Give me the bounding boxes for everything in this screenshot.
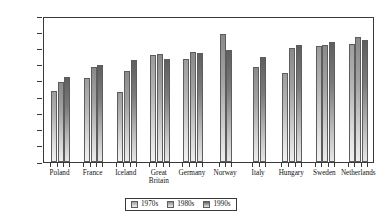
bar-germany-1980s bbox=[190, 52, 196, 162]
y-tick-mark bbox=[37, 98, 42, 99]
bar-norway-1990s bbox=[226, 50, 232, 162]
bar-germany-1970s bbox=[183, 59, 189, 162]
x-tick-mark bbox=[265, 163, 266, 167]
bar-france-1990s bbox=[97, 65, 103, 162]
x-tick-mark bbox=[196, 163, 197, 167]
y-tick-mark bbox=[37, 114, 42, 115]
legend-item-label: 1990s bbox=[213, 200, 230, 209]
bar-france-1980s bbox=[91, 67, 97, 162]
x-tick-mark bbox=[149, 163, 150, 167]
legend-item[interactable]: 1980s bbox=[167, 200, 194, 209]
bar-poland-1970s bbox=[51, 91, 57, 162]
bar-great-britain-1980s bbox=[157, 54, 163, 162]
bar-sweden-1990s bbox=[329, 42, 335, 162]
x-axis-label-france: France bbox=[76, 169, 109, 177]
legend-swatch-icon bbox=[131, 201, 138, 208]
bar-france-1970s bbox=[84, 78, 90, 162]
x-axis-label-great-britain: Great Britain bbox=[142, 169, 175, 186]
bar-italy-1990s bbox=[260, 57, 266, 162]
x-tick-mark bbox=[69, 163, 70, 167]
x-tick-mark bbox=[116, 163, 117, 167]
legend-item-label: 1970s bbox=[141, 200, 158, 209]
x-tick-mark bbox=[163, 163, 164, 167]
x-axis-label-germany: Germany bbox=[175, 169, 208, 177]
bar-great-britain-1990s bbox=[164, 59, 170, 162]
x-tick-mark bbox=[123, 163, 124, 167]
x-tick-mark bbox=[130, 163, 131, 167]
y-tick-mark bbox=[37, 65, 42, 66]
x-tick-mark bbox=[219, 163, 220, 167]
y-tick-mark bbox=[37, 146, 42, 147]
bar-iceland-1980s bbox=[124, 71, 130, 162]
x-tick-mark bbox=[301, 163, 302, 167]
x-tick-mark bbox=[136, 163, 137, 167]
x-tick-mark bbox=[202, 163, 203, 167]
legend-item-label: 1980s bbox=[177, 200, 194, 209]
x-axis-label-italy: Italy bbox=[242, 169, 275, 177]
x-tick-mark bbox=[231, 163, 232, 167]
legend-swatch-icon bbox=[167, 201, 174, 208]
x-tick-mark bbox=[321, 163, 322, 167]
x-tick-mark bbox=[295, 163, 296, 167]
x-axis-label-hungary: Hungary bbox=[275, 169, 308, 177]
bar-chart: Population production 051015202530354045… bbox=[0, 0, 392, 224]
x-tick-mark bbox=[225, 163, 226, 167]
bar-netherlands-1980s bbox=[355, 37, 361, 162]
x-axis-label-poland: Poland bbox=[43, 169, 76, 177]
x-tick-mark bbox=[96, 163, 97, 167]
y-tick-mark bbox=[37, 33, 42, 34]
plot-area bbox=[43, 17, 374, 163]
x-tick-mark bbox=[334, 163, 335, 167]
x-tick-mark bbox=[367, 163, 368, 167]
x-tick-mark bbox=[315, 163, 316, 167]
x-axis-label-norway: Norway bbox=[209, 169, 242, 177]
bar-hungary-1990s bbox=[296, 45, 302, 162]
x-tick-mark bbox=[252, 163, 253, 167]
x-axis-label-iceland: Iceland bbox=[109, 169, 142, 177]
x-tick-mark bbox=[348, 163, 349, 167]
bar-iceland-1970s bbox=[117, 92, 123, 162]
x-tick-mark bbox=[361, 163, 362, 167]
bar-iceland-1990s bbox=[131, 60, 137, 162]
x-tick-mark bbox=[90, 163, 91, 167]
y-tick-mark bbox=[37, 49, 42, 50]
legend-item[interactable]: 1990s bbox=[203, 200, 230, 209]
x-tick-mark bbox=[281, 163, 282, 167]
x-tick-mark bbox=[328, 163, 329, 167]
y-tick-mark bbox=[37, 163, 42, 164]
bar-netherlands-1970s bbox=[349, 44, 355, 162]
x-axis-label-netherlands: Netherlands bbox=[341, 169, 374, 177]
legend-swatch-icon bbox=[203, 201, 210, 208]
bar-italy-1980s bbox=[253, 67, 259, 162]
y-tick-mark bbox=[37, 81, 42, 82]
bar-germany-1990s bbox=[197, 53, 203, 162]
y-tick-mark bbox=[37, 17, 42, 18]
x-tick-mark bbox=[288, 163, 289, 167]
bar-poland-1980s bbox=[58, 82, 64, 162]
bar-sweden-1980s bbox=[322, 45, 328, 162]
x-tick-mark bbox=[57, 163, 58, 167]
x-tick-mark bbox=[169, 163, 170, 167]
bar-hungary-1970s bbox=[282, 73, 288, 162]
x-tick-mark bbox=[354, 163, 355, 167]
x-tick-mark bbox=[189, 163, 190, 167]
chart-legend: 1970s 1980s 1990s bbox=[125, 198, 237, 211]
x-tick-mark bbox=[156, 163, 157, 167]
bar-norway-1980s bbox=[220, 34, 226, 162]
bar-great-britain-1970s bbox=[150, 55, 156, 162]
bar-sweden-1970s bbox=[316, 46, 322, 162]
bar-netherlands-1990s bbox=[362, 40, 368, 162]
y-tick-mark bbox=[37, 130, 42, 131]
x-tick-mark bbox=[63, 163, 64, 167]
legend-item[interactable]: 1970s bbox=[131, 200, 158, 209]
bar-poland-1990s bbox=[64, 77, 70, 162]
x-tick-mark bbox=[259, 163, 260, 167]
bar-hungary-1980s bbox=[289, 48, 295, 162]
x-tick-mark bbox=[182, 163, 183, 167]
x-axis-label-sweden: Sweden bbox=[308, 169, 341, 177]
x-tick-mark bbox=[83, 163, 84, 167]
x-tick-mark bbox=[50, 163, 51, 167]
x-tick-mark bbox=[102, 163, 103, 167]
